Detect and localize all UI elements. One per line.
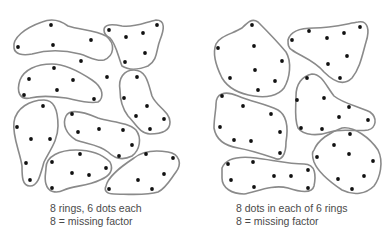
left-ring-7 <box>45 150 111 192</box>
dot <box>141 31 145 35</box>
dot <box>249 139 253 143</box>
dot <box>162 117 166 121</box>
dot <box>306 168 310 172</box>
dot <box>27 77 31 81</box>
dot <box>228 76 232 80</box>
dot <box>150 187 154 191</box>
dot <box>273 79 277 83</box>
dot <box>104 166 108 170</box>
left-panel-8-rings <box>14 20 180 195</box>
dot <box>51 43 55 47</box>
dot <box>148 127 152 131</box>
ring-outline <box>296 74 376 135</box>
dot <box>124 35 128 39</box>
dot <box>253 68 257 72</box>
right-panel-6-rings <box>214 20 381 194</box>
dot <box>41 104 45 108</box>
dot <box>24 161 28 165</box>
dot <box>232 138 236 142</box>
ring-outline <box>45 150 111 192</box>
dot <box>171 156 175 160</box>
dot <box>143 51 147 55</box>
ring-outline <box>222 157 315 194</box>
dot <box>71 78 75 82</box>
dot <box>22 93 26 97</box>
dot <box>122 96 126 100</box>
ring-outline <box>14 100 58 186</box>
dot <box>322 96 326 100</box>
dot <box>107 187 111 191</box>
dot <box>256 88 260 92</box>
dot <box>350 187 354 191</box>
dot <box>70 112 74 116</box>
dot <box>295 98 299 102</box>
dot <box>29 137 33 141</box>
dot <box>162 172 166 176</box>
ring-outline <box>214 20 289 96</box>
dot <box>89 38 93 42</box>
right-ring-3 <box>214 93 287 159</box>
left-ring-6 <box>64 112 139 159</box>
dot <box>347 152 351 156</box>
right-caption-line2: 8 = missing factor <box>236 215 348 228</box>
right-ring-6 <box>313 128 381 194</box>
dot <box>49 23 53 27</box>
dot <box>337 115 341 119</box>
dot <box>70 171 74 175</box>
right-ring-4 <box>295 74 375 135</box>
left-caption-line1: 8 rings, 6 dots each <box>50 202 142 215</box>
dot <box>50 186 54 190</box>
dot <box>272 174 276 178</box>
dot <box>338 76 342 80</box>
dot <box>216 46 220 50</box>
left-caption-line2: 8 = missing factor <box>50 215 142 228</box>
dot <box>320 127 324 131</box>
dot <box>342 31 346 35</box>
ring-outline <box>64 112 139 159</box>
dot <box>241 104 245 108</box>
dot <box>79 59 83 63</box>
right-ring-5 <box>222 157 315 194</box>
left-ring-5 <box>14 100 58 186</box>
dot <box>16 45 20 49</box>
dot <box>299 126 303 130</box>
dot <box>252 185 256 189</box>
left-ring-3 <box>18 64 101 103</box>
dot <box>348 132 352 136</box>
dot <box>76 130 80 134</box>
dot <box>358 25 362 29</box>
dot <box>52 66 56 70</box>
dot <box>250 23 254 27</box>
dot <box>326 62 330 66</box>
dot <box>135 75 139 79</box>
dot <box>325 36 329 40</box>
left-caption: 8 rings, 6 dots each 8 = missing factor <box>50 202 142 228</box>
dot <box>78 152 82 156</box>
dot <box>117 154 121 158</box>
dot <box>305 76 309 80</box>
dot <box>145 104 149 108</box>
dot <box>15 125 19 129</box>
dot <box>336 177 340 181</box>
dot <box>362 174 366 178</box>
ring-outline <box>288 22 368 83</box>
dot <box>97 127 101 131</box>
ring-outline <box>214 93 287 159</box>
dot <box>306 186 310 190</box>
dot <box>371 159 375 163</box>
dot <box>130 143 134 147</box>
dot <box>252 44 256 48</box>
dot <box>48 137 52 141</box>
dot <box>332 143 336 147</box>
dot <box>55 88 59 92</box>
dot <box>269 112 273 116</box>
right-ring-1 <box>214 20 289 96</box>
dot <box>123 60 127 64</box>
dot <box>105 75 109 79</box>
dot <box>144 152 148 156</box>
dot <box>280 59 284 63</box>
dot <box>307 29 311 33</box>
ring-outline <box>14 20 113 60</box>
dot <box>136 178 140 182</box>
dot <box>92 97 96 101</box>
